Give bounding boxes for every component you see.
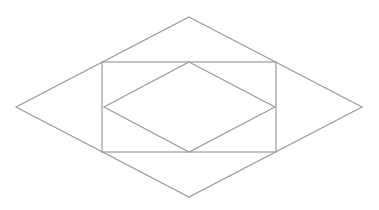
rectangle: [102, 62, 276, 152]
outer-diamond: [16, 17, 362, 197]
inner-diamond: [104, 62, 275, 152]
diagram-canvas: [0, 0, 379, 210]
